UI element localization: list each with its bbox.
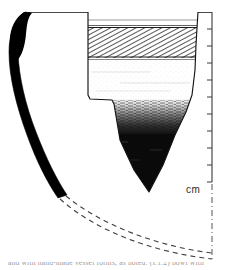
vessel-drawing-canvas bbox=[0, 0, 227, 270]
decorated-sherd-elevation bbox=[80, 12, 206, 196]
reconstructed-base-dashed-curves bbox=[60, 196, 212, 259]
pottery-profile-figure: cm and with hand-made vessel forms, as n… bbox=[0, 0, 227, 270]
light-stipple-body-band bbox=[80, 60, 206, 100]
hatched-decoration-band bbox=[80, 27, 206, 58]
scale-unit-label: cm bbox=[186, 185, 200, 195]
scale-bar bbox=[207, 12, 212, 182]
caption-text: and with hand-made vessel forms, as note… bbox=[8, 262, 204, 267]
cropped-caption-strip: and with hand-made vessel forms, as note… bbox=[0, 262, 227, 270]
vessel-wall-solid-section bbox=[9, 12, 67, 198]
plain-rim-band bbox=[80, 12, 206, 27]
